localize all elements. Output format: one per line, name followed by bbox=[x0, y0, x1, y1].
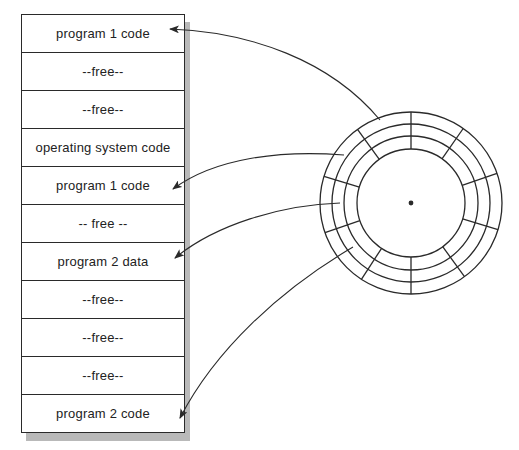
memory-block-free: --free-- bbox=[22, 91, 184, 129]
memory-block-program-2-code: program 2 code bbox=[22, 395, 184, 432]
disk-sector-divider-3 bbox=[463, 219, 498, 230]
memory-map: program 1 code --free-- --free-- operati… bbox=[21, 14, 185, 433]
memory-block-operating-system-code: operating system code bbox=[22, 129, 184, 167]
cropped-figure-caption bbox=[0, 0, 519, 4]
memory-block-program-1-code: program 1 code bbox=[22, 167, 184, 205]
disk-track-ring-2 bbox=[344, 136, 478, 270]
arrow-to-program-1-code bbox=[173, 154, 344, 189]
memory-block-program-2-data: program 2 data bbox=[22, 243, 184, 281]
disk-sector-divider-1 bbox=[442, 129, 463, 159]
disk-sector-divider-9 bbox=[358, 129, 380, 159]
disk-icon bbox=[320, 112, 502, 294]
memory-block-free: --free-- bbox=[22, 319, 184, 357]
disk-track-ring-3 bbox=[357, 149, 465, 257]
arrow-to-program-2-code bbox=[180, 247, 353, 418]
memory-block-free: --free-- bbox=[22, 53, 184, 91]
memory-block-free: --free-- bbox=[22, 281, 184, 319]
disk-sector-divider-8 bbox=[324, 176, 359, 187]
disk-track-ring-0 bbox=[320, 112, 502, 294]
memory-block-program-1-code: program 1 code bbox=[22, 15, 184, 53]
memory-block-free: -- free -- bbox=[22, 205, 184, 243]
disk-sector-divider-6 bbox=[361, 248, 381, 279]
disk-sector-divider-4 bbox=[443, 247, 465, 277]
disk-spindle-dot-icon bbox=[409, 201, 414, 206]
disk-track-ring-1 bbox=[332, 124, 490, 282]
arrows bbox=[170, 29, 380, 418]
memory-block-free: --free-- bbox=[22, 357, 184, 395]
arrow-to-program-1-code-top bbox=[170, 29, 380, 120]
disk-sector-divider-7 bbox=[325, 221, 360, 233]
arrow-to-program-2-data bbox=[175, 203, 340, 258]
disk-sector-divider-2 bbox=[462, 173, 497, 185]
